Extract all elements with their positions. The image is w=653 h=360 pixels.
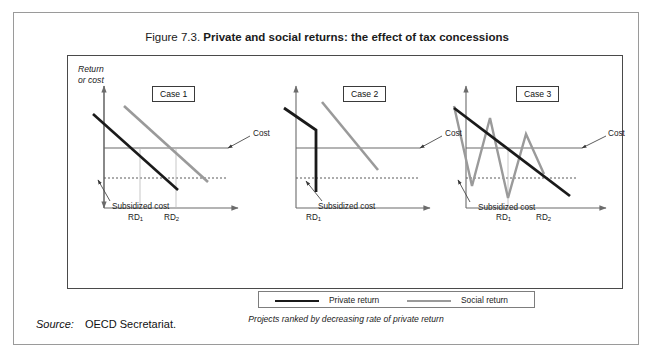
private-return-line-case-2 [284,108,316,192]
cost-label-case-2: Cost [445,129,462,138]
legend: Private return Social return [258,291,535,308]
legend-swatch-private-return [275,300,319,302]
source-line: Source:OECD Secretariat. [36,318,176,330]
subsidized-cost-label-case-3: Subsidized cost [478,203,535,212]
figure-number: Figure 7.3. [145,31,200,43]
case-label-box-2: Case 2 [343,86,386,102]
legend-label-social-return: Social return [461,295,508,305]
panel-case-3 [454,86,606,208]
page-title: Figure 7.3. Private and social returns: … [14,31,640,43]
cost-label-case-3: Cost [608,129,625,138]
source-label: Source: [36,318,74,330]
social-return-line-case-2 [322,102,378,170]
subsidized-cost-label-case-1: Subsidized cost [112,202,169,211]
plot-area: Return or cost [67,55,623,289]
tick-rd1-case-2: RD1 [306,213,321,222]
tick-rd2-case-1: RD2 [164,213,179,222]
subsidized-cost-label-case-2: Subsidized cost [318,202,375,211]
tick-rd1-case-1: RD1 [128,213,143,222]
legend-label-private-return: Private return [329,295,379,305]
figure-outer-frame: Figure 7.3. Private and social returns: … [13,12,639,345]
cost-label-case-1: Cost [253,129,270,138]
tick-rd2-case-3: RD2 [536,213,551,222]
source-value: OECD Secretariat. [85,318,176,330]
tick-rd1-case-3: RD1 [496,213,511,222]
case-label-box-3: Case 3 [516,86,559,102]
figure-title-text: Private and social returns: the effect o… [203,31,509,43]
social-return-line-case-1 [124,106,208,182]
legend-swatch-social-return [407,300,451,302]
case-label-box-1: Case 1 [152,86,195,102]
figure-page: Figure 7.3. Private and social returns: … [0,0,653,360]
panel-case-2 [284,86,442,208]
private-return-line-case-1 [93,114,178,190]
panel-case-1 [93,86,250,208]
